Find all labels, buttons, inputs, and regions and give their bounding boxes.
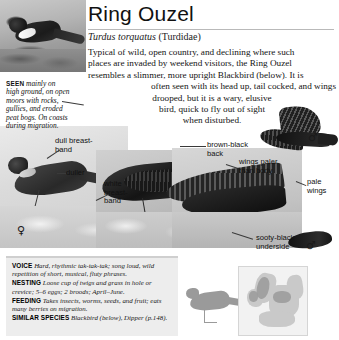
info-text-voice: Hard, rhythmic tak-tak-tak; song loud, w… (12, 262, 154, 277)
info-row-similar-species: SIMILAR SPECIES Blackbird (below), Dippe… (12, 314, 173, 322)
description-line: often seen with its head up, tail cocked… (88, 81, 336, 92)
description-line: bird, quick to fly out of sight (88, 104, 336, 115)
description-line: when disturbed. (88, 115, 336, 126)
callout-pale-wings: pale wings (307, 178, 337, 195)
info-label-feeding: FEEDING (12, 297, 41, 304)
female-symbol: ♀ (17, 225, 25, 236)
habitat-caption: SEEN mainly on high ground, on open moor… (6, 80, 70, 130)
page-title: Ring Ouzel (88, 2, 336, 26)
scientific-name-family: (Turdidae) (158, 31, 200, 42)
description-line: resembles a slimmer, more upright Blackb… (88, 70, 336, 81)
photo-ground-foliage (0, 49, 86, 72)
bird-tail-shape (318, 133, 339, 146)
europe-distribution-map (238, 266, 308, 336)
callout-wings-paler-than-body: wings paler than body (239, 158, 285, 175)
info-text-similar-species: Blackbird (below), Dipper (p.148). (71, 314, 167, 321)
info-label-similar-species: SIMILAR SPECIES (12, 314, 69, 321)
description-line: places are invaded by weekend visitors, … (88, 58, 336, 69)
species-description: Typical of wild, open country, and decli… (88, 47, 336, 127)
scientific-name: Turdus torquatus (Turdidae) (88, 31, 336, 42)
photo-ring-ouzel-perched (0, 0, 86, 72)
callout-duller: duller (66, 169, 98, 178)
info-row-feeding: FEEDING Takes insects, worms, seeds, and… (12, 297, 173, 313)
map-range-shading (273, 291, 291, 303)
map-range-shading (249, 291, 258, 302)
callout-sooty-black-underside: sooty-black underside (256, 234, 300, 251)
habitat-caption-text: mainly on high ground, on open moors wit… (6, 79, 69, 130)
info-row-voice: VOICE Hard, rhythmic tak-tak-tak; song l… (12, 262, 173, 278)
info-row-nesting: NESTING Loose cup of twigs and grass in … (12, 279, 173, 295)
scientific-name-latin: Turdus torquatus (88, 31, 156, 42)
description-line: drooped, but it is a wary, elusive (88, 93, 336, 104)
description-line: Typical of wild, open country, and decli… (88, 47, 336, 58)
bird-tail-shape (52, 28, 85, 44)
callout-brown-black-back: brown-black back (207, 141, 255, 158)
bird-illustration (9, 14, 75, 50)
habitat-caption-keyword: SEEN (6, 80, 24, 87)
title-divider (88, 29, 334, 30)
silhouette-legs (204, 308, 217, 323)
male-symbol-underside: ♂ (306, 240, 316, 251)
leader-line-duller (57, 173, 66, 174)
field-guide-page: Ring Ouzel Turdus torquatus (Turdidae) T… (0, 0, 339, 340)
leader-line-brown-black-back (180, 146, 206, 147)
callout-white-breast-band: white breast-band (104, 180, 137, 206)
bird-silhouette (186, 284, 242, 330)
map-landmass (259, 311, 295, 327)
info-label-nesting: NESTING (12, 279, 41, 286)
species-info-panel: VOICE Hard, rhythmic tak-tak-tak; song l… (6, 256, 178, 336)
silhouette-head (186, 288, 199, 299)
male-symbol-flight: ♂ (308, 132, 318, 143)
info-label-voice: VOICE (12, 262, 32, 269)
callout-dull-breast-band: dull breast-band (55, 137, 99, 154)
